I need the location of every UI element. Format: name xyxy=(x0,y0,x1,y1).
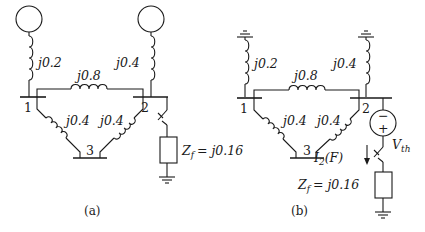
impedance-line12-label: j0.8 xyxy=(291,68,318,83)
inductor-icon xyxy=(29,36,33,80)
fault-impedance-label: Zf= j0.16 xyxy=(181,143,243,160)
panel-b: j0.2 j0.4 1 2 3 j0.8 j0.4 j0.4 − xyxy=(237,31,410,218)
fault-current-label: I2(F) xyxy=(313,150,343,167)
bus-3-label: 3 xyxy=(303,143,311,158)
circuit-diagram: j0.2 j0.4 1 2 3 j0.8 j0.4 j0.4 xyxy=(0,0,425,232)
ground-icon xyxy=(159,177,175,183)
impedance-gen1-label: j0.2 xyxy=(251,56,278,71)
thevenin-voltage-label: Vth xyxy=(392,137,410,154)
source-plus-sign: + xyxy=(378,121,388,136)
impedance-line23-label: j0.4 xyxy=(314,113,341,128)
panel-a: j0.2 j0.4 1 2 3 j0.8 j0.4 j0.4 xyxy=(16,6,243,218)
inductor-icon xyxy=(245,40,249,84)
impedance-line23-label: j0.4 xyxy=(97,113,124,128)
impedance-line13-label: j0.4 xyxy=(63,113,90,128)
impedance-line12-label: j0.8 xyxy=(74,68,101,83)
fault-impedance-icon xyxy=(375,172,392,198)
fault-impedance-icon xyxy=(160,137,177,163)
ground-icon xyxy=(375,212,391,218)
inductor-icon xyxy=(366,40,370,84)
inductor-icon xyxy=(151,36,155,80)
ground-icon xyxy=(358,31,374,37)
impedance-gen2-label: j0.4 xyxy=(330,56,357,71)
bus-2-label: 2 xyxy=(362,101,370,116)
bus-1-label: 1 xyxy=(240,101,248,116)
impedance-gen2-label: j0.4 xyxy=(113,55,140,70)
bus-2-label: 2 xyxy=(141,100,149,115)
caption-b: (b) xyxy=(291,204,308,218)
inductor-icon xyxy=(71,85,107,90)
generator-2-icon xyxy=(138,6,164,32)
bus-3-label: 3 xyxy=(86,143,94,158)
fault-impedance-label: Zf= j0.16 xyxy=(297,177,359,194)
ground-icon xyxy=(237,31,253,37)
bus-1-label: 1 xyxy=(24,100,32,115)
inductor-icon xyxy=(289,86,325,91)
impedance-line13-label: j0.4 xyxy=(280,113,307,128)
generator-1-icon xyxy=(16,6,42,32)
impedance-gen1-label: j0.2 xyxy=(35,55,62,70)
caption-a: (a) xyxy=(84,204,101,218)
